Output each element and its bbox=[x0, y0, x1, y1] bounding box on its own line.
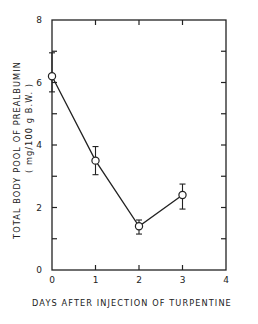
y-tick-label: 8 bbox=[36, 15, 42, 25]
y-axis-label: TOTAL BODY POOL OF PREALBUMIN bbox=[12, 61, 22, 240]
data-point-marker bbox=[48, 73, 55, 80]
y-tick-label: 0 bbox=[36, 265, 42, 275]
y-tick-label: 4 bbox=[36, 140, 42, 150]
x-tick-label: 4 bbox=[223, 275, 229, 285]
x-tick-label: 3 bbox=[180, 275, 186, 285]
x-tick-label: 0 bbox=[49, 275, 55, 285]
data-point-marker bbox=[92, 157, 99, 164]
y-tick-label: 2 bbox=[36, 203, 42, 213]
y-tick-label: 6 bbox=[36, 78, 42, 88]
tick-labels: 0123402468 bbox=[36, 15, 229, 285]
data-series bbox=[48, 53, 186, 234]
chart: 0123402468 DAYS AFTER INJECTION OF TURPE… bbox=[0, 0, 258, 324]
x-tick-label: 1 bbox=[93, 275, 99, 285]
x-tick-label: 2 bbox=[136, 275, 142, 285]
data-point-marker bbox=[179, 191, 186, 198]
series-line bbox=[52, 76, 183, 226]
x-axis-label: DAYS AFTER INJECTION OF TURPENTINE bbox=[32, 298, 232, 308]
data-point-marker bbox=[135, 223, 142, 230]
y-axis-units: ( mg/100 g B.W. ) bbox=[24, 83, 34, 173]
